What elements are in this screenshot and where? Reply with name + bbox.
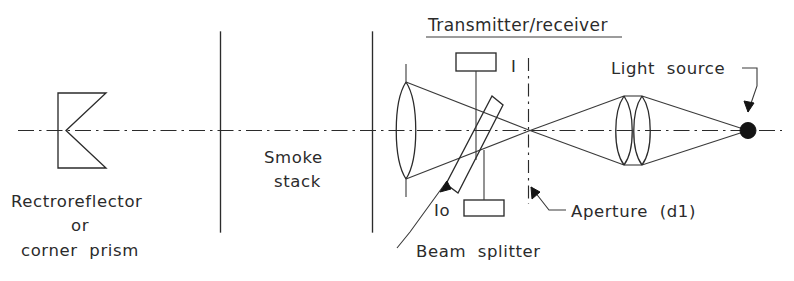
retroreflector-label-line2: or xyxy=(71,216,89,235)
detector-io xyxy=(464,150,504,216)
optical-schematic-svg: Transmitter/receiver Rectroreflector or … xyxy=(0,0,794,281)
light-source-label: Light source xyxy=(611,59,725,78)
detector-i xyxy=(456,53,496,160)
detector-i-label: I xyxy=(511,57,516,76)
light-source xyxy=(740,123,756,139)
aperture-label: Aperture (d1) xyxy=(571,202,696,221)
aperture-leader xyxy=(531,187,566,210)
smoke-stack-label-line2: stack xyxy=(274,172,321,191)
detector-io-label: Io xyxy=(434,201,450,220)
light-source-leader xyxy=(742,68,757,112)
beam-splitter-label: Beam splitter xyxy=(416,242,541,261)
smoke-stack-label-line1: Smoke xyxy=(264,148,323,167)
figure-canvas: Transmitter/receiver Rectroreflector or … xyxy=(0,0,794,281)
retroreflector-label-line3: corner prism xyxy=(21,241,139,260)
retroreflector-label-line1: Rectroreflector xyxy=(11,192,142,211)
page-title: Transmitter/receiver xyxy=(427,15,608,35)
